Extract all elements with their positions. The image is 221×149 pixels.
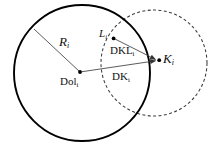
- K-point: [157, 58, 161, 62]
- Dol-point: [78, 70, 82, 74]
- center-label: Doli: [60, 76, 78, 87]
- radius-label: Ri: [59, 35, 69, 48]
- K-vertex-label: Ki: [163, 52, 174, 65]
- L-point: [112, 37, 116, 41]
- diagram-vector-layer: [0, 0, 221, 149]
- radius-segment: [34, 29, 80, 72]
- DK-segment-label: DKi: [112, 71, 130, 82]
- secondary-dashed-circle: [101, 10, 207, 116]
- DKL-segment-label: DKLi: [110, 45, 135, 56]
- L-vertex-label: Li: [99, 28, 107, 39]
- geometry-diagram-canvas: Ri Doli Li Ki DKLi DKi: [0, 0, 221, 149]
